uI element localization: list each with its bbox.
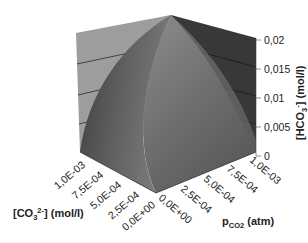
surface-chart: 0 0,005 0,01 0,015 0,02 [HCO3-] (mol/l) … xyxy=(0,0,308,243)
z-tick-label: 0,015 xyxy=(264,63,290,75)
x-axis-title: pCO2 (atm) xyxy=(222,215,274,230)
z-tick-label: 0,005 xyxy=(264,121,290,133)
y-axis-title: [CO32-] (mol/l) xyxy=(13,206,84,222)
z-tick-label: 0,02 xyxy=(264,34,285,46)
z-axis: 0 0,005 0,01 0,015 0,02 [HCO3-] (mol/l) xyxy=(256,34,308,162)
z-tick-label: 0,01 xyxy=(264,92,285,104)
z-axis-title: [HCO3-] (mol/l) xyxy=(293,65,308,140)
